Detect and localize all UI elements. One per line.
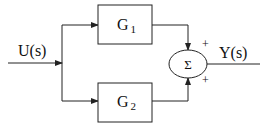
g1-subscript: 1 bbox=[131, 23, 137, 35]
g2-output-line bbox=[152, 78, 188, 101]
plus-sign-bottom: + bbox=[202, 73, 209, 87]
block-g1: G1 bbox=[98, 5, 152, 44]
input-label: U(s) bbox=[18, 42, 46, 60]
block-diagram: U(s) G1 G2 Σ + + Y(s) bbox=[0, 0, 269, 128]
block-g2: G2 bbox=[98, 83, 152, 122]
g1-output-line bbox=[152, 25, 188, 50]
g2-subscript: 2 bbox=[131, 100, 137, 112]
sigma-symbol: Σ bbox=[184, 57, 192, 72]
plus-sign-top: + bbox=[202, 37, 209, 51]
g1-name: G bbox=[117, 16, 129, 33]
output-label: Y(s) bbox=[219, 44, 247, 62]
g2-name: G bbox=[117, 93, 129, 110]
